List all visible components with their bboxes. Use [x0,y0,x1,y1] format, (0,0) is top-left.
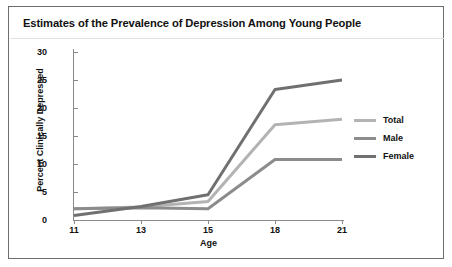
legend-swatch-female [354,155,376,158]
legend-item-female[interactable]: Female [354,147,440,165]
legend-item-total[interactable]: Total [354,111,440,129]
legend-swatch-total [354,119,376,122]
series-line-female [74,80,342,216]
chart-legend: Total Male Female [354,111,440,165]
legend-label-female: Female [383,151,414,161]
legend-label-male: Male [383,133,403,143]
legend-swatch-male [354,137,376,140]
chart-figure: Estimates of the Prevalence of Depressio… [8,6,444,259]
legend-item-male[interactable]: Male [354,129,440,147]
legend-label-total: Total [383,115,404,125]
